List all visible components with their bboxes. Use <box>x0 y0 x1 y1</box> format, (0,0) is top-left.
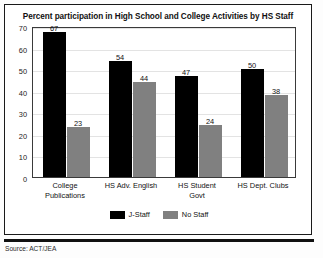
bar-value-label: 47 <box>171 68 202 77</box>
chart-screenshot: Percent participation in High School and… <box>0 0 323 258</box>
x-axis-labels: College PublicationsHS Adv. EnglishHS St… <box>32 181 296 211</box>
bar-value-label: 23 <box>63 119 94 128</box>
bar-value-label: 67 <box>39 24 70 33</box>
x-axis-category-label: HS Dept. Clubs <box>230 181 296 191</box>
bar <box>175 76 198 177</box>
bar <box>43 32 66 177</box>
bar <box>241 69 264 177</box>
bar-value-label: 44 <box>129 74 160 83</box>
y-axis-tick-60: 60 <box>19 45 27 54</box>
y-axis-tick-10: 10 <box>19 153 27 162</box>
bar <box>133 82 156 177</box>
bar-value-label: 50 <box>237 61 268 70</box>
legend-label: No Staff <box>182 210 209 219</box>
chart-frame: Percent participation in High School and… <box>4 4 312 235</box>
chart-legend: J-StaffNo Staff <box>5 210 313 219</box>
legend-item: No Staff <box>163 210 209 219</box>
x-axis-category-label: HS Student Govt <box>164 181 230 200</box>
bar <box>199 125 222 177</box>
bar-value-label: 38 <box>261 87 292 96</box>
footer-divider <box>4 239 314 242</box>
y-axis-tick-50: 50 <box>19 67 27 76</box>
legend-swatch-icon <box>163 211 178 219</box>
y-axis-tick-20: 20 <box>19 131 27 140</box>
bar <box>265 95 288 177</box>
legend-label: J-Staff <box>129 210 150 219</box>
y-axis-tick-40: 40 <box>19 88 27 97</box>
bar-value-label: 24 <box>195 117 226 126</box>
source-caption: Source: ACT/JEA <box>5 245 56 252</box>
y-axis-tick-0: 0 <box>23 175 27 184</box>
legend-item: J-Staff <box>110 210 150 219</box>
bar <box>67 127 90 177</box>
x-axis-category-label: HS Adv. English <box>98 181 164 191</box>
y-axis-tick-30: 30 <box>19 110 27 119</box>
y-axis-tick-70: 70 <box>19 24 27 33</box>
legend-swatch-icon <box>110 211 125 219</box>
x-axis-category-label: College Publications <box>32 181 98 200</box>
bar-value-label: 54 <box>105 53 136 62</box>
y-axis: 010203040506070 <box>5 27 30 180</box>
chart-title: Percent participation in High School and… <box>5 12 311 21</box>
plot-area: 6723544447245038 <box>32 27 296 178</box>
bars-layer: 6723544447245038 <box>33 28 295 177</box>
